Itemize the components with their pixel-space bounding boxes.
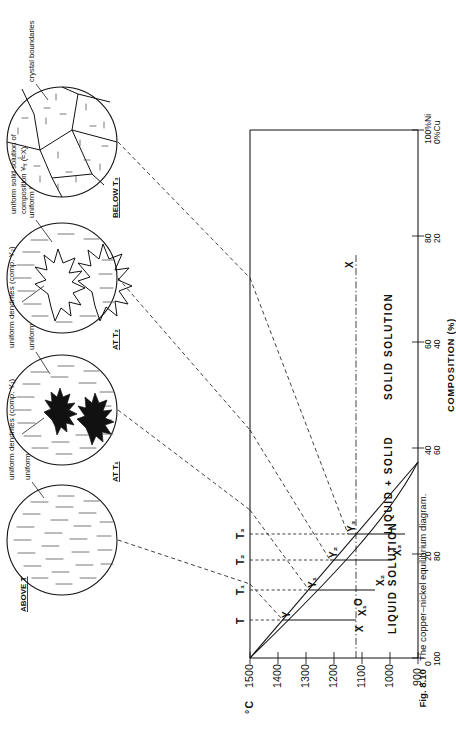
liquidus-point-label: X₂	[375, 575, 386, 586]
inset-heading: AT T₂	[111, 329, 120, 350]
temperature-label: T₁	[235, 585, 246, 595]
inset-pointer-line	[118, 410, 250, 510]
inset-heading: AT T₁	[111, 461, 120, 482]
solidus-point-label: Y₃	[346, 520, 357, 532]
inset-annotation: composition Y₃ (=X)	[19, 146, 28, 214]
inset-annotation: uniform dendrites (comp. Y₁)	[7, 378, 16, 480]
inset-annotation: crystal boundaries	[27, 20, 36, 82]
composition-x-marker: X	[344, 261, 355, 268]
temperature-label: T₃	[235, 528, 246, 539]
inset-pointer-line	[118, 540, 250, 584]
solidus-point-label: Y₁	[307, 577, 318, 588]
inset-heading: ABOVE T	[19, 576, 28, 612]
solidus-point-label: Y₂	[328, 547, 339, 558]
y-tick-label: 1500	[243, 664, 255, 688]
y-axis-unit: °C	[243, 699, 255, 714]
inset-annotation: uniform dendrites (comp. Y₂)	[7, 246, 16, 348]
temperature-label: T₂	[235, 554, 246, 565]
inset-annotation: uniform solid solution of	[9, 133, 18, 214]
inset-guide-rays	[250, 278, 348, 620]
x-axis-title: COMPOSITION (%)	[446, 318, 456, 412]
temperature-labels: T T₁ T₂ T₃	[235, 528, 246, 624]
y-tick-label: 1400	[271, 664, 283, 688]
y-tick-label: 1300	[299, 664, 311, 688]
liquidus-point-label: X₁	[357, 605, 368, 616]
figure-caption-text: The copper–nickel equilibrium diagram.	[417, 494, 428, 661]
inset-pointer-line	[118, 142, 250, 278]
y-tick-label: 1100	[355, 665, 367, 688]
solidus-point-labels: Y Y₁ Y₂ Y₃	[281, 520, 357, 618]
solidus-point-label: Y	[281, 611, 292, 618]
inset-pointer-line	[118, 278, 250, 430]
origin-label: O	[353, 598, 364, 606]
y-tick-label: 1200	[327, 664, 339, 688]
figure-number: Fig. 8.10	[417, 669, 428, 707]
figure-caption: Fig. 8.10 The copper–nickel equilibrium …	[417, 8, 428, 708]
liquidus-point-label: X	[354, 625, 365, 632]
inset-heading: BELOW T₃	[111, 177, 120, 218]
temperature-label: T	[235, 618, 246, 624]
figure-caption-wrap: Fig. 8.10 The copper–nickel equilibrium …	[392, 0, 428, 730]
